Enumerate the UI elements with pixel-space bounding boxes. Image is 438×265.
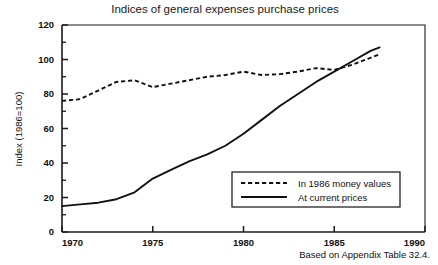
y-axis-title: Index (1986=100)	[13, 92, 24, 167]
y-tick-label: 20	[43, 192, 54, 203]
x-tick-label: 1985	[324, 237, 346, 248]
y-tick-label: 60	[43, 123, 54, 134]
y-tick-label: 120	[38, 19, 54, 30]
chart-figure: Indices of general expenses purchase pri…	[0, 0, 438, 265]
legend: In 1986 money values At current prices	[232, 172, 400, 207]
x-axis-ticks: 19701975198019851990	[62, 226, 425, 248]
x-tick-label: 1980	[233, 237, 254, 248]
legend-label-at-current-prices: At current prices	[298, 192, 367, 203]
y-axis-ticks: 020406080100120	[38, 19, 68, 237]
y-tick-label: 80	[43, 88, 54, 99]
chart-title: Indices of general expenses purchase pri…	[111, 3, 339, 15]
x-tick-label: 1970	[62, 237, 83, 248]
source-note: Based on Appendix Table 32.4.	[299, 249, 430, 260]
x-tick-label: 1990	[404, 237, 425, 248]
y-tick-label: 40	[43, 157, 54, 168]
y-tick-label: 100	[38, 54, 54, 65]
series-in-1986-money-values	[62, 54, 380, 101]
legend-label-in-1986-money-values: In 1986 money values	[298, 178, 391, 189]
x-tick-label: 1975	[142, 237, 164, 248]
y-tick-label: 0	[49, 226, 54, 237]
chart-canvas: Indices of general expenses purchase pri…	[0, 0, 438, 265]
